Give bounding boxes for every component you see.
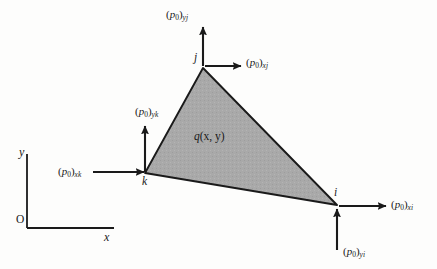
force-sub-p0-x-i: xi: [408, 203, 413, 212]
force-label-p0-x-k: (p0)xk: [58, 166, 81, 178]
force-label-p0-y-i: (p0)yi: [343, 246, 365, 258]
field-function-args: (x, y): [200, 130, 225, 142]
force-label-p0-y-j: (p0)yj: [166, 9, 188, 21]
force-sub-p0-x-j: xj: [263, 61, 268, 70]
x-axis-label: x: [104, 231, 109, 243]
vertex-label-i: i: [334, 187, 337, 199]
force-sub-p0-y-i: yi: [360, 250, 365, 259]
vertex-label-j: j: [194, 52, 197, 64]
triangle-element: [145, 68, 337, 205]
force-label-p0-x-j: (p0)xj: [246, 57, 268, 69]
force-label-p0-x-i: (p0)xi: [391, 199, 413, 211]
force-sub-p0-y-j: yj: [183, 13, 188, 22]
figure-canvas: (p0)yj (p0)xj (p0)yk (p0)xk (p0)xi (p0)y…: [0, 0, 437, 269]
force-sub-p0-x-k: xk: [75, 170, 82, 179]
force-sub-p0-y-k: yk: [152, 110, 159, 119]
field-function-label: q(x, y): [194, 131, 225, 143]
origin-label: O: [16, 214, 24, 226]
force-label-p0-y-k: (p0)yk: [135, 106, 158, 118]
vertex-label-k: k: [142, 176, 147, 188]
y-axis-label: y: [19, 146, 24, 158]
